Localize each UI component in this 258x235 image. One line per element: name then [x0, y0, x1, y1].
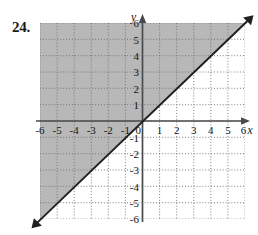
y-tick-label: 4: [134, 50, 140, 62]
y-tick-label: 2: [134, 83, 140, 95]
x-tick-label: -1: [121, 124, 130, 136]
x-tick-label: 4: [208, 124, 214, 136]
x-tick-label: -4: [70, 124, 80, 136]
x-tick-label: 5: [225, 124, 231, 136]
x-tick-label: 3: [191, 124, 197, 136]
x-axis-label: x: [246, 124, 253, 136]
y-tick-label: -2: [130, 148, 139, 160]
graph-svg: -6 -5 -4 -3 -2 -1 0 1 2 3 4 5 6 6 5 4 3: [0, 0, 258, 235]
x-tick-label: 2: [174, 124, 180, 136]
y-tick-label: -5: [130, 197, 140, 209]
y-tick-label: 3: [134, 66, 140, 78]
coordinate-graph: -6 -5 -4 -3 -2 -1 0 1 2 3 4 5 6 6 5 4 3: [0, 0, 258, 235]
x-tick-label: -5: [53, 124, 63, 136]
y-axis-label: y: [130, 11, 137, 24]
y-tick-label: -3: [130, 164, 140, 176]
y-tick-label: 1: [134, 99, 140, 111]
y-tick-label: 5: [134, 34, 140, 46]
x-tick-label: 6: [241, 124, 247, 136]
y-tick-label: -4: [130, 181, 140, 193]
x-tick-label: -6: [35, 124, 45, 136]
y-tick-label: -1: [130, 132, 139, 144]
x-tick-label: -3: [87, 124, 97, 136]
figure-page: 24.: [0, 0, 258, 235]
x-tick-label: 1: [157, 124, 163, 136]
y-tick-label: -6: [130, 213, 140, 225]
x-tick-label: -2: [104, 124, 113, 136]
